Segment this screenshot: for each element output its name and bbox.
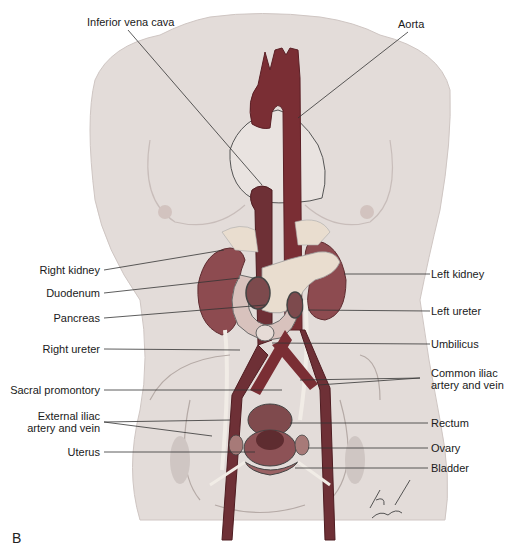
label-external-iliac-line1: External iliac (27, 410, 100, 422)
panel-letter: B (12, 530, 21, 546)
label-duodenum: Duodenum (46, 287, 100, 299)
label-external-iliac: External iliac artery and vein (27, 410, 100, 434)
left-nipple (360, 205, 374, 219)
jejunum-opening (287, 292, 303, 318)
label-ovary: Ovary (431, 442, 460, 454)
label-right-ureter: Right ureter (43, 343, 100, 355)
label-aorta: Aorta (398, 18, 424, 30)
label-rectum: Rectum (431, 417, 469, 429)
label-bladder: Bladder (431, 462, 469, 474)
label-pancreas: Pancreas (54, 312, 100, 324)
label-inferior-vena-cava: Inferior vena cava (87, 16, 174, 28)
label-left-kidney: Left kidney (431, 268, 484, 280)
right-nipple (158, 205, 172, 219)
right-obturator (170, 436, 190, 484)
label-common-iliac-line1: Common iliac (431, 367, 504, 379)
label-right-kidney: Right kidney (39, 264, 100, 276)
rectum-opening (256, 430, 284, 450)
left-obturator (345, 436, 365, 484)
label-uterus: Uterus (68, 446, 100, 458)
label-sacral-promontory: Sacral promontory (10, 384, 100, 396)
label-common-iliac-line2: artery and vein (431, 379, 504, 391)
duodenum-opening (246, 277, 270, 309)
left-ovary (295, 435, 309, 455)
label-umbilicus: Umbilicus (431, 338, 479, 350)
label-common-iliac: Common iliac artery and vein (431, 367, 504, 391)
label-external-iliac-line2: artery and vein (27, 422, 100, 434)
umbilicus (256, 325, 274, 341)
label-left-ureter: Left ureter (431, 305, 481, 317)
